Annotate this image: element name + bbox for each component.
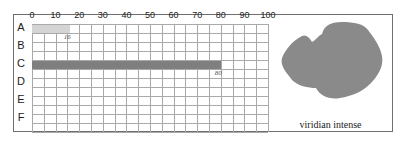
- gridline-horizontal: [32, 96, 268, 97]
- bar-a: [32, 25, 70, 33]
- row-label-a: A: [14, 21, 28, 33]
- paint-swatch-icon: [268, 14, 393, 114]
- gridline-horizontal: [32, 105, 268, 106]
- x-tick-label: 80: [216, 10, 226, 20]
- gridline-horizontal: [32, 69, 268, 70]
- x-tick-label: 70: [192, 10, 202, 20]
- bar-value-label: 80: [215, 69, 222, 77]
- x-axis-ticks: 0102030405060708090100: [32, 10, 268, 22]
- bar-c: [32, 61, 221, 69]
- x-tick-label: 10: [51, 10, 61, 20]
- x-tick-label: 60: [169, 10, 179, 20]
- x-tick-label: 20: [74, 10, 84, 20]
- x-tick-label: 30: [98, 10, 108, 20]
- x-tick-label: 0: [29, 10, 34, 20]
- x-tick-label: 50: [145, 10, 155, 20]
- plot-area: 1680: [32, 24, 268, 132]
- gridline-horizontal: [32, 78, 268, 79]
- gridline-horizontal: [32, 123, 268, 124]
- gridline-horizontal: [32, 132, 268, 133]
- gridline-horizontal: [32, 51, 268, 52]
- row-label-b: B: [14, 39, 28, 51]
- gridline-horizontal: [32, 87, 268, 88]
- swatch-caption: viridian intense: [268, 119, 393, 130]
- color-swatch-panel: viridian intense: [268, 14, 393, 132]
- x-tick-label: 90: [239, 10, 249, 20]
- x-tick-label: 40: [121, 10, 131, 20]
- row-label-d: D: [14, 75, 28, 87]
- row-label-c: C: [14, 57, 28, 69]
- gridline-horizontal: [32, 42, 268, 43]
- row-label-e: E: [14, 93, 28, 105]
- bar-value-label: 16: [64, 33, 71, 41]
- gridline-horizontal: [32, 114, 268, 115]
- row-label-f: F: [14, 111, 28, 123]
